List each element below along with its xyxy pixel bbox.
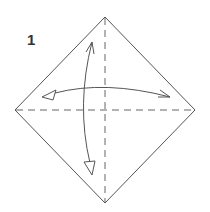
origami-diagram — [0, 0, 210, 212]
